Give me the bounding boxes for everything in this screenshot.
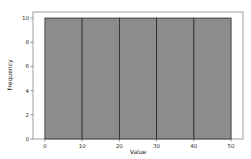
y-tick-label: 10	[22, 15, 29, 21]
histogram-bar	[119, 18, 156, 139]
histogram-bar	[194, 18, 231, 139]
histogram-chart: 01020304050 0246810 Value Frequency	[0, 0, 251, 159]
x-tick-label: 50	[228, 143, 235, 149]
y-tick-label: 2	[26, 112, 30, 118]
x-tick-label: 10	[79, 143, 86, 149]
y-tick-label: 6	[26, 63, 30, 69]
histogram-bar	[157, 18, 194, 139]
y-tick-label: 4	[26, 88, 30, 94]
y-tick-label: 8	[26, 39, 30, 45]
histogram-bar	[82, 18, 119, 139]
x-tick-label: 20	[116, 143, 123, 149]
y-axis-label: Frequency	[6, 59, 14, 90]
bars-group	[45, 18, 231, 139]
y-tick-label: 0	[26, 136, 30, 142]
histogram-bar	[45, 18, 82, 139]
x-tick-label: 40	[190, 143, 197, 149]
x-axis-label: Value	[130, 148, 147, 155]
y-axis-ticks: 0246810	[22, 15, 33, 142]
x-tick-label: 30	[153, 143, 160, 149]
x-tick-label: 0	[43, 143, 47, 149]
